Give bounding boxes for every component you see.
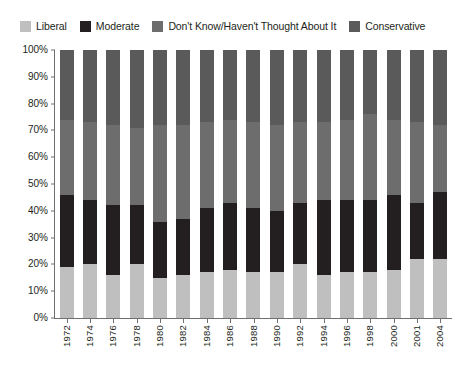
bar-segment[interactable] [340, 50, 354, 120]
x-axis-label: 1974 [85, 325, 95, 347]
bar-segment[interactable] [317, 122, 331, 200]
bar-segment[interactable] [270, 211, 284, 273]
bar-segment[interactable] [387, 270, 401, 318]
bar-segment[interactable] [200, 122, 214, 208]
bar-segment[interactable] [363, 114, 377, 200]
stacked-bar[interactable] [340, 50, 354, 318]
bar-segment[interactable] [176, 275, 190, 318]
stacked-bar[interactable] [223, 50, 237, 318]
legend-conservative[interactable]: Conservative [349, 21, 425, 32]
stacked-bar[interactable] [200, 50, 214, 318]
legend-moderate-swatch-icon [80, 21, 91, 32]
stacked-bar[interactable] [410, 50, 424, 318]
bar-segment[interactable] [340, 120, 354, 200]
bar-segment[interactable] [83, 264, 97, 318]
bar-segment[interactable] [153, 278, 167, 318]
bar-segment[interactable] [60, 267, 74, 318]
bar-segment[interactable] [223, 203, 237, 270]
chart-legend: LiberalModerateDon't Know/Haven't Though… [20, 18, 438, 34]
bar-segment[interactable] [433, 125, 447, 192]
bar-segment[interactable] [363, 50, 377, 114]
y-axis-tick [51, 103, 55, 104]
stacked-bar[interactable] [176, 50, 190, 318]
bar-segment[interactable] [83, 200, 97, 264]
bar-segment[interactable] [176, 50, 190, 125]
stacked-bar[interactable] [153, 50, 167, 318]
bar-segment[interactable] [83, 122, 97, 200]
bar-segment[interactable] [317, 200, 331, 275]
x-axis-label: 2001 [412, 325, 422, 347]
bar-segment[interactable] [293, 50, 307, 122]
bar-segment[interactable] [270, 50, 284, 125]
bar-segment[interactable] [387, 50, 401, 120]
bar-segment[interactable] [153, 50, 167, 125]
bar-segment[interactable] [223, 120, 237, 203]
bar-segment[interactable] [387, 120, 401, 195]
bar-segment[interactable] [317, 275, 331, 318]
bar-segment[interactable] [106, 275, 120, 318]
stacked-bar[interactable] [60, 50, 74, 318]
stacked-bar[interactable] [130, 50, 144, 318]
bar-segment[interactable] [387, 195, 401, 270]
bar-segment[interactable] [176, 125, 190, 219]
stacked-bar[interactable] [433, 50, 447, 318]
bar-segment[interactable] [317, 50, 331, 122]
legend-dont-know[interactable]: Don't Know/Haven't Thought About It [152, 21, 336, 32]
bar-segment[interactable] [293, 203, 307, 265]
bar-segment[interactable] [246, 50, 260, 122]
bar-segment[interactable] [106, 205, 120, 275]
bar-segment[interactable] [60, 195, 74, 267]
bar-segment[interactable] [410, 122, 424, 202]
bar-segment[interactable] [130, 205, 144, 264]
bar-segment[interactable] [200, 208, 214, 272]
stacked-bar[interactable] [106, 50, 120, 318]
stacked-bar[interactable] [270, 50, 284, 318]
bar-segment[interactable] [410, 203, 424, 259]
bar-segment[interactable] [106, 125, 120, 205]
bar-segment[interactable] [340, 200, 354, 272]
y-axis-tick [51, 264, 55, 265]
bar-segment[interactable] [246, 272, 260, 318]
bar-segment[interactable] [130, 50, 144, 128]
bar-segment[interactable] [200, 272, 214, 318]
x-axis-tick [347, 318, 348, 323]
stacked-bar[interactable] [363, 50, 377, 318]
stacked-bar[interactable] [387, 50, 401, 318]
bar-segment[interactable] [433, 50, 447, 125]
bar-segment[interactable] [176, 219, 190, 275]
bar-segment[interactable] [83, 50, 97, 122]
bar-segment[interactable] [153, 125, 167, 221]
bar-segment[interactable] [130, 264, 144, 318]
bar-segment[interactable] [223, 50, 237, 120]
bar-segment[interactable] [363, 200, 377, 272]
bar-segment[interactable] [200, 50, 214, 122]
legend-liberal[interactable]: Liberal [20, 21, 67, 32]
x-axis-label: 2000 [389, 325, 399, 347]
bar-segment[interactable] [410, 259, 424, 318]
bar-segment[interactable] [433, 192, 447, 259]
bar-segment[interactable] [340, 272, 354, 318]
bar-segment[interactable] [223, 270, 237, 318]
y-axis-tick [51, 318, 55, 319]
bar-segment[interactable] [106, 50, 120, 125]
bar-segment[interactable] [410, 50, 424, 122]
bar-segment[interactable] [60, 120, 74, 195]
plot-area: 0%10%20%30%40%50%60%70%80%90%100%1972197… [54, 50, 452, 319]
bar-segment[interactable] [270, 272, 284, 318]
bar-segment[interactable] [60, 50, 74, 120]
bar-segment[interactable] [363, 272, 377, 318]
x-axis-label: 1988 [249, 325, 259, 347]
bar-segment[interactable] [246, 122, 260, 208]
stacked-bar[interactable] [246, 50, 260, 318]
stacked-bar[interactable] [293, 50, 307, 318]
stacked-bar[interactable] [83, 50, 97, 318]
stacked-bar[interactable] [317, 50, 331, 318]
bar-segment[interactable] [130, 128, 144, 206]
bar-segment[interactable] [270, 125, 284, 211]
bar-segment[interactable] [293, 264, 307, 318]
legend-moderate[interactable]: Moderate [80, 21, 140, 32]
bar-segment[interactable] [153, 222, 167, 278]
bar-segment[interactable] [293, 122, 307, 202]
bar-segment[interactable] [246, 208, 260, 272]
bar-segment[interactable] [433, 259, 447, 318]
